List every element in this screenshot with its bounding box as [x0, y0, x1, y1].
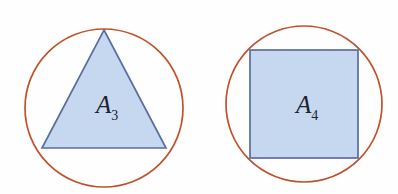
- square-label-base: A: [294, 91, 312, 118]
- figure-container: A3 A4: [0, 0, 398, 194]
- triangle-label-subscript: 3: [111, 108, 118, 123]
- triangle-label-base: A: [94, 91, 112, 118]
- square-label-subscript: 4: [311, 108, 318, 123]
- inscribed-polygons-figure: A3 A4: [0, 0, 398, 194]
- square-panel: A4: [226, 26, 382, 182]
